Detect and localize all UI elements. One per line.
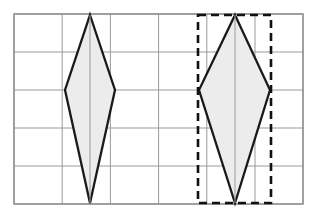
figure-canvas bbox=[0, 0, 316, 220]
geometry-figure-container bbox=[0, 0, 316, 220]
page-background bbox=[0, 0, 316, 220]
